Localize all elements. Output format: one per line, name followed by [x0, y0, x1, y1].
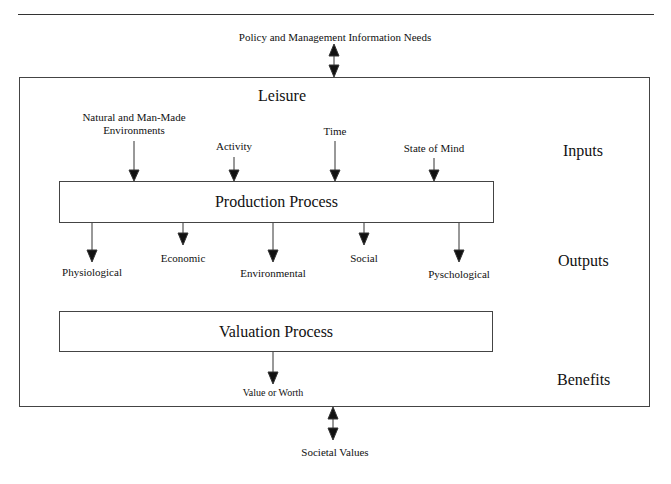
input-arrow-icon — [429, 158, 439, 181]
societal-double-arrow-icon — [328, 407, 338, 440]
input-arrow-icon — [229, 157, 239, 181]
arrows-layer — [0, 0, 671, 484]
output-arrow-icon — [268, 223, 278, 262]
input-arrow-icon — [330, 141, 340, 181]
output-arrow-icon — [454, 223, 464, 262]
output-arrow-icon — [359, 223, 369, 245]
benefit-arrow-icon — [268, 352, 278, 384]
output-arrow-icon — [178, 223, 188, 245]
policy-double-arrow-icon — [329, 44, 339, 77]
input-arrow-icon — [129, 141, 139, 181]
output-arrow-icon — [87, 223, 97, 262]
